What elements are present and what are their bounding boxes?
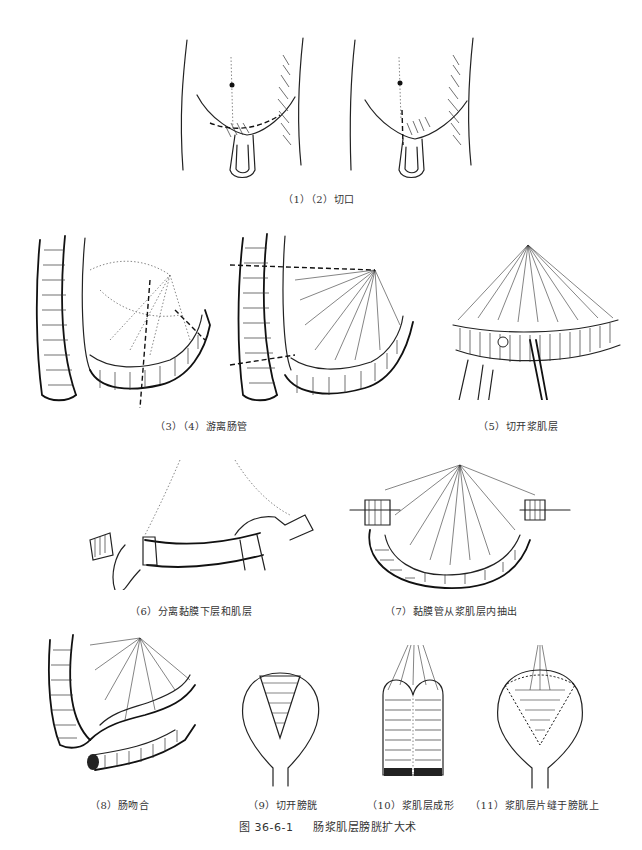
illustration-incision-right [345,35,485,180]
illustration-mobilize-intestine-4 [225,230,415,408]
figure-number: 图 36-6-1 [239,821,293,834]
illustration-incision-left [175,35,315,180]
illustration-separate-submucosa [85,455,315,590]
caption-panel-10: （10）浆肌层成形 [367,797,454,812]
caption-panel-9: （9）切开膀胱 [248,797,318,812]
caption-panel-8: （8）肠吻合 [90,797,149,812]
caption-panel-11: （11）浆肌层片缝于膀胱上 [470,797,599,812]
caption-panel-6: （6）分离黏膜下层和肌层 [130,603,252,618]
illustration-withdraw-mucosal-tube [345,460,580,590]
figure-title: 肠浆肌层膀胱扩大术 [313,821,417,834]
caption-panel-7: （7）黏膜管从浆肌层内抽出 [385,603,518,618]
illustration-mobilize-intestine-3 [30,230,215,408]
caption-panel-3-4: （3）（4）游离肠管 [155,418,248,433]
illustration-intestinal-anastomosis [45,630,210,780]
illustration-incise-seromuscular [448,240,623,400]
illustration-patch-sutured-bladder [490,640,590,790]
illustration-open-bladder [238,668,323,788]
caption-panel-5: （5）切开浆肌层 [478,418,558,433]
illustration-seromuscular-shaping [378,640,448,785]
caption-panel-1-2: （1）（2）切口 [283,191,355,206]
figure-caption: 图 36-6-1 肠浆肌层膀胱扩大术 [239,818,417,834]
